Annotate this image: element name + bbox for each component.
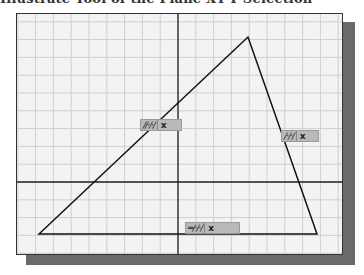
delete-constraint-button[interactable]: x xyxy=(204,223,217,233)
parallel-constraint-icon: ∕·∕·∕ xyxy=(282,131,296,141)
constraint-label-left-edge[interactable]: ∕∕·∕·∕ x xyxy=(140,119,182,131)
horizontal-constraint-icon: ═∕·∕·∕ xyxy=(186,223,204,233)
constraint-label-right-edge[interactable]: ∕·∕·∕ x xyxy=(281,130,319,142)
figure-caption: Illustrate Tool of the Plane XY-Y Select… xyxy=(0,0,364,6)
parallel-constraint-icon: ∕∕·∕·∕ xyxy=(141,120,157,130)
constraint-label-bottom-edge[interactable]: ═∕·∕·∕ x xyxy=(185,222,240,234)
delete-constraint-button[interactable]: x xyxy=(296,131,309,141)
delete-constraint-button[interactable]: x xyxy=(157,120,170,130)
